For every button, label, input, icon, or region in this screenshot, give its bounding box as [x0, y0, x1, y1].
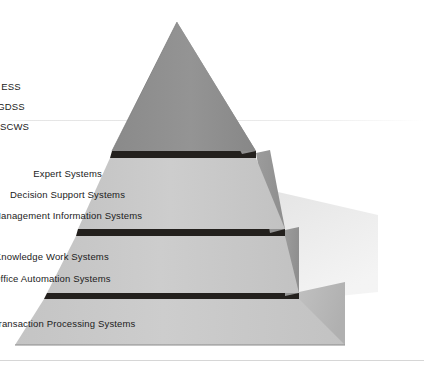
- tier-4-front-face: [15, 299, 345, 345]
- tier-3-top-edge: [76, 229, 285, 236]
- pyramid-graphic: [0, 0, 424, 367]
- tier-3-front-face: [47, 236, 299, 293]
- pyramid-diagram: ESS GDSS CSCWS Expert Systems Decision S…: [0, 0, 424, 367]
- tier-4-top-edge: [44, 293, 299, 299]
- tier-2-top-edge: [110, 151, 256, 158]
- bottom-divider-line: [0, 360, 424, 361]
- tier-2-front-face: [78, 158, 285, 229]
- tier-1-front-face: [112, 22, 256, 151]
